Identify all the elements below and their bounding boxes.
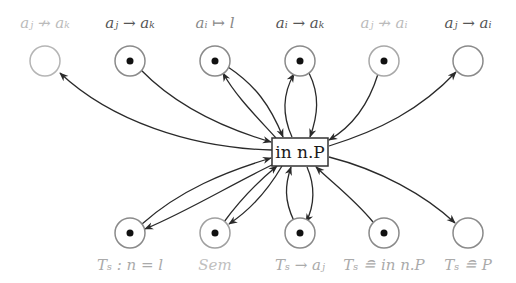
bottom-label-0: Tₛ : n = l xyxy=(97,256,163,274)
token-dot xyxy=(381,58,388,65)
top-label-5: aⱼ → aᵢ xyxy=(445,14,492,32)
edges-top xyxy=(60,67,456,150)
edge-bottom3-to-center xyxy=(316,167,373,222)
bottom-label-4: Tₛ ≘ P xyxy=(444,256,492,274)
place-bottom-4 xyxy=(453,218,483,248)
token-dot xyxy=(212,230,219,237)
edge-bottom1-to-center xyxy=(224,166,277,222)
bottom-label-2: Tₛ → aⱼ xyxy=(275,256,325,274)
place-top-5 xyxy=(453,46,483,76)
top-places xyxy=(30,46,483,76)
petri-net-diagram xyxy=(0,0,516,283)
top-label-3: aᵢ → aₖ xyxy=(276,14,324,32)
top-label-0: aⱼ ↛ aₖ xyxy=(20,14,69,32)
edge-center-to-bottom2 xyxy=(306,167,313,222)
edge-center-to-bottom1 xyxy=(229,166,282,224)
top-label-4: aⱼ ↛ aᵢ xyxy=(361,14,408,32)
token-dot xyxy=(127,58,134,65)
edge-center-to-top0 xyxy=(60,73,272,150)
place-top-0 xyxy=(30,46,60,76)
token-dot xyxy=(297,58,304,65)
edge-center-to-top3 xyxy=(285,74,294,137)
token-dot xyxy=(127,230,134,237)
bottom-label-3: Tₛ ≘ in n.P xyxy=(343,256,424,274)
edge-bottom0-to-center xyxy=(142,158,271,224)
token-dot xyxy=(297,230,304,237)
edge-top3-to-center xyxy=(309,73,317,137)
bottom-label-1: Sem xyxy=(198,256,231,274)
edge-center-to-bottom4 xyxy=(329,157,455,223)
transition-label: in n.P xyxy=(275,142,325,162)
token-dot xyxy=(212,58,219,65)
bottom-places xyxy=(115,218,483,248)
edge-bottom2-to-center xyxy=(286,167,294,221)
top-label-1: aⱼ → aₖ xyxy=(105,14,154,32)
top-label-2: aᵢ ↦ l xyxy=(196,14,235,32)
edge-top2-to-center xyxy=(228,67,283,137)
token-dot xyxy=(381,230,388,237)
edge-center-to-top5 xyxy=(329,72,456,146)
